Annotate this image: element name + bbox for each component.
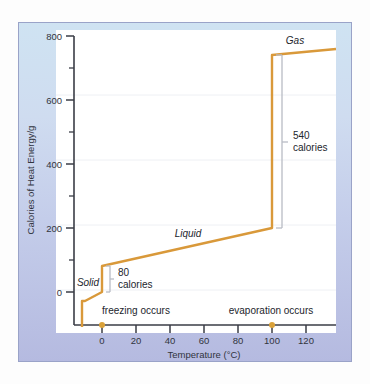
x-tick-label-80: 80 — [233, 335, 244, 346]
x-tick-label-100: 100 — [264, 335, 280, 346]
x-tick-label-120: 120 — [298, 335, 314, 346]
solid-phase-label: Solid — [77, 277, 100, 288]
vaporization-bracket-unit: calories — [293, 142, 327, 153]
figure-root: 800 600 400 200 0 Calories of Heat Energ… — [0, 0, 370, 384]
gas-phase-label: Gas — [286, 35, 304, 46]
y-tick-label-200: 200 — [46, 223, 62, 234]
evaporation-event-marker — [269, 322, 275, 328]
chart-panel: 800 600 400 200 0 Calories of Heat Energ… — [18, 22, 352, 362]
y-tick-label-400: 400 — [46, 159, 62, 170]
y-tick-label-800: 800 — [46, 31, 62, 42]
x-tick-label-40: 40 — [165, 335, 176, 346]
freezing-event-marker — [99, 322, 105, 328]
fusion-bracket-unit: calories — [118, 279, 152, 290]
evaporation-event-label: evaporation occurs — [229, 305, 314, 316]
x-tick-label-20: 20 — [131, 335, 142, 346]
x-tick-label-0: 0 — [99, 335, 104, 346]
y-tick-label-600: 600 — [46, 95, 62, 106]
x-tick-label-60: 60 — [199, 335, 210, 346]
y-axis-title: Calories of Heat Energy/g — [25, 126, 36, 235]
fusion-bracket-value: 80 — [118, 267, 130, 278]
heating-curve-chart: 800 600 400 200 0 Calories of Heat Energ… — [18, 22, 352, 362]
y-tick-label-0: 0 — [57, 287, 62, 298]
freezing-event-label: freezing occurs — [102, 305, 170, 316]
vaporization-bracket-value: 540 — [293, 130, 310, 141]
x-axis-title: Temperature (°C) — [168, 349, 241, 360]
liquid-phase-label: Liquid — [175, 228, 202, 239]
